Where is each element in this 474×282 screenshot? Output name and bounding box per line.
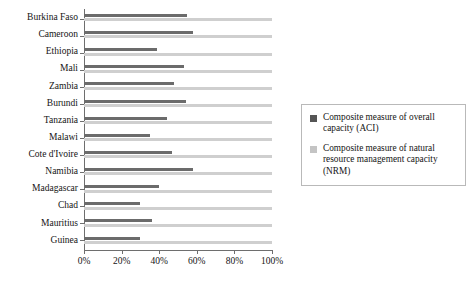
bar-row <box>84 198 272 213</box>
bar-row <box>84 181 272 196</box>
x-axis-tick-label: 60% <box>188 255 205 267</box>
bar-row <box>84 27 272 42</box>
bar-nrm <box>84 18 272 21</box>
bar-row <box>84 164 272 179</box>
bar-row <box>84 96 272 111</box>
category-label: Burkina Faso <box>0 10 78 25</box>
bar-aci <box>84 219 152 222</box>
bar-row <box>84 79 272 94</box>
light-gray-swatch <box>310 146 317 153</box>
bar-nrm <box>84 172 272 175</box>
category-label: Mauritius <box>0 216 78 231</box>
bar-nrm <box>84 138 272 141</box>
bar-nrm <box>84 70 272 73</box>
category-label: Guinea <box>0 233 78 248</box>
x-axis-tick <box>159 250 160 254</box>
bar-nrm <box>84 190 272 193</box>
bar-row <box>84 147 272 162</box>
bar-nrm <box>84 224 272 227</box>
category-label: Chad <box>0 198 78 213</box>
bar-rows <box>84 10 272 248</box>
bar-nrm <box>84 35 272 38</box>
category-label: Tanzania <box>0 113 78 128</box>
category-label: Madagascar <box>0 181 78 196</box>
plot-area <box>84 10 272 248</box>
bar-aci <box>84 65 184 68</box>
x-axis-tick-label: 80% <box>226 255 243 267</box>
category-label: Cote d'Ivoire <box>0 147 78 162</box>
x-axis-tick <box>197 250 198 254</box>
bar-row <box>84 216 272 231</box>
bar-row <box>84 61 272 76</box>
category-label: Burundi <box>0 96 78 111</box>
bar-row <box>84 233 272 248</box>
x-axis-tick-label: 0% <box>78 255 91 267</box>
bar-row <box>84 130 272 145</box>
category-label: Ethiopia <box>0 44 78 59</box>
bar-aci <box>84 151 172 154</box>
bar-nrm <box>84 53 272 56</box>
bar-nrm <box>84 87 272 90</box>
bar-row <box>84 113 272 128</box>
x-axis-tick <box>272 250 273 254</box>
bar-aci <box>84 48 157 51</box>
bar-row <box>84 44 272 59</box>
category-label: Cameroon <box>0 27 78 42</box>
x-axis-tick <box>84 250 85 254</box>
bar-aci <box>84 14 187 17</box>
bar-aci <box>84 185 159 188</box>
legend-label: Composite measure of overall capacity (A… <box>323 112 457 135</box>
bar-aci <box>84 237 140 240</box>
bar-nrm <box>84 207 272 210</box>
x-axis-tick-label: 20% <box>113 255 130 267</box>
bar-aci <box>84 82 174 85</box>
bar-nrm <box>84 121 272 124</box>
bar-nrm <box>84 155 272 158</box>
bar-nrm <box>84 241 272 244</box>
legend-item: Composite measure of overall capacity (A… <box>310 112 457 135</box>
category-label: Namibia <box>0 164 78 179</box>
bar-chart: Burkina FasoCameroonEthiopiaMaliZambiaBu… <box>0 0 474 282</box>
x-axis-ticks <box>84 250 273 254</box>
x-axis-tick-label: 40% <box>150 255 167 267</box>
category-axis-labels: Burkina FasoCameroonEthiopiaMaliZambiaBu… <box>0 10 78 248</box>
x-axis-labels: 0%20%40%60%80%100% <box>84 255 273 269</box>
bar-aci <box>84 31 193 34</box>
x-axis-tick <box>234 250 235 254</box>
bar-aci <box>84 134 150 137</box>
legend-label: Composite measure of natural resource ma… <box>323 143 457 177</box>
category-label: Malawi <box>0 130 78 145</box>
bar-row <box>84 10 272 25</box>
chart-legend: Composite measure of overall capacity (A… <box>301 104 466 186</box>
bar-aci <box>84 100 186 103</box>
category-label: Mali <box>0 61 78 76</box>
x-axis-tick <box>122 250 123 254</box>
dark-gray-swatch <box>310 115 317 122</box>
bar-aci <box>84 168 193 171</box>
legend-item: Composite measure of natural resource ma… <box>310 143 457 177</box>
bar-nrm <box>84 104 272 107</box>
bar-aci <box>84 117 167 120</box>
x-axis-tick-label: 100% <box>261 255 283 267</box>
category-label: Zambia <box>0 79 78 94</box>
bar-aci <box>84 202 140 205</box>
